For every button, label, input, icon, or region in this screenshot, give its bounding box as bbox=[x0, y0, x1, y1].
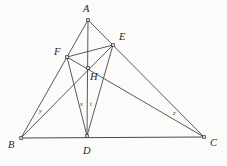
geometry-figure: ABCDEFH yxtz bbox=[0, 0, 227, 166]
segment-label-t: t bbox=[90, 101, 92, 108]
vertex-marker-a bbox=[87, 19, 90, 22]
segment-ab bbox=[21, 20, 88, 138]
vertex-marker-e bbox=[112, 44, 115, 47]
segment-be bbox=[21, 45, 113, 138]
segment-fd bbox=[67, 57, 87, 136]
point-label-a: A bbox=[83, 4, 89, 15]
vertex-marker-d bbox=[86, 135, 89, 138]
segment-label-z: z bbox=[173, 110, 176, 117]
segment-label-x: x bbox=[80, 101, 83, 108]
point-label-h: H bbox=[90, 72, 98, 83]
point-label-f: F bbox=[54, 47, 60, 58]
segment-fe bbox=[67, 45, 113, 57]
segment-ac bbox=[88, 20, 204, 137]
vertex-marker-f bbox=[66, 56, 69, 59]
point-label-c: C bbox=[210, 138, 217, 149]
figure-canvas bbox=[0, 0, 227, 166]
point-label-e: E bbox=[119, 32, 125, 43]
edges-layer bbox=[21, 20, 204, 138]
point-label-b: B bbox=[8, 140, 14, 151]
vertex-marker-b bbox=[20, 137, 23, 140]
vertex-marker-h bbox=[87, 67, 90, 70]
point-label-d: D bbox=[83, 146, 91, 157]
segment-bc bbox=[21, 137, 204, 138]
segment-label-y: y bbox=[39, 108, 42, 115]
segment-ad bbox=[87, 20, 88, 136]
vertex-marker-c bbox=[203, 136, 206, 139]
